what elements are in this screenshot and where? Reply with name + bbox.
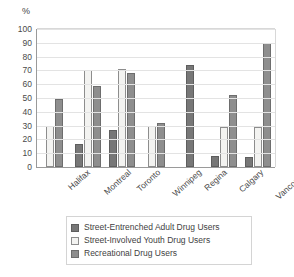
bar [75,144,83,167]
y-axis-tick-label: 10 [8,149,32,158]
bar-chart-figure: % 1009080706050403020100 HalifaxMontreal… [0,0,294,277]
y-axis-tick-label: 80 [8,53,32,62]
bar [157,123,165,167]
gridline [37,112,275,113]
bar [55,99,63,167]
y-axis-tick-label: 50 [8,94,32,103]
gridline [37,153,275,154]
x-axis-ticks: HalifaxMontrealTorontoWinnipegReginaCalg… [36,168,274,204]
gridline [37,29,275,30]
legend-item: Recreational Drug Users [71,247,246,260]
legend-swatch-icon [71,250,79,258]
y-axis-tick-label: 90 [8,39,32,48]
legend-item: Street-Involved Youth Drug Users [71,234,246,247]
x-axis-tick-label: Calgary [238,168,266,194]
y-axis-tick-label: 0 [8,163,32,172]
y-axis-tick-label: 100 [8,25,32,34]
y-axis-tick-label: 30 [8,122,32,131]
chart-legend: Street-Entrenched Adult Drug UsersStreet… [66,216,252,265]
gridline [37,98,275,99]
y-axis-unit-label: % [22,6,30,16]
x-axis-tick-label: Regina [203,168,229,193]
legend-swatch-icon [71,237,79,245]
y-axis-tick-label: 40 [8,108,32,117]
bar [245,157,253,167]
legend-label: Recreational Drug Users [84,249,177,258]
x-axis-tick-label: Winnipeg [172,168,204,198]
bar [46,126,54,167]
plot-area [36,29,275,168]
gridline [37,139,275,140]
gridline [37,43,275,44]
legend-label: Street-Entrenched Adult Drug Users [84,223,220,232]
y-axis-tick-label: 20 [8,135,32,144]
x-axis-tick-label: Halifax [67,168,92,192]
y-axis-tick-label: 60 [8,80,32,89]
bar [220,127,228,167]
bar [109,130,117,167]
bar [186,65,194,167]
bar [148,126,156,167]
gridline [37,84,275,85]
plot-border-right [275,29,276,167]
x-axis-tick-label: Montreal [103,168,134,197]
y-axis-tick-label: 70 [8,66,32,75]
x-axis-tick-label: Toronto [136,168,163,194]
gridline [37,57,275,58]
gridline [37,70,275,71]
bar [211,156,219,167]
bar [263,43,271,167]
legend-label: Street-Involved Youth Drug Users [84,236,210,245]
legend-swatch-icon [71,224,79,232]
bar [254,127,262,167]
x-axis-tick-label: Vancouver [275,168,294,201]
bar [229,95,237,167]
gridline [37,126,275,127]
legend-item: Street-Entrenched Adult Drug Users [71,221,246,234]
